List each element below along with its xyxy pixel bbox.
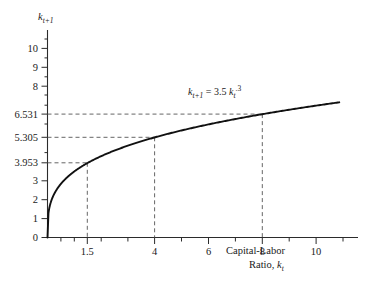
x-axis-major-ticks <box>87 238 316 245</box>
x-axis-minor-ticks <box>61 238 343 242</box>
y-tick-label-8: 8 <box>33 81 38 92</box>
y-tick-label-1: 1 <box>33 213 38 224</box>
equation-rhs-sup: .3 <box>236 84 242 93</box>
svg-text:kt+1: kt+1 <box>38 11 54 25</box>
y-tick-label-2: 2 <box>33 194 38 205</box>
x-tick-label-10: 10 <box>311 246 322 257</box>
y-tick-label-9: 9 <box>33 62 38 73</box>
y-axis-title-sub: t+1 <box>43 16 54 25</box>
y-tick-label-10: 10 <box>28 43 39 54</box>
x-tick-label-1p5: 1.5 <box>81 246 94 257</box>
x-axis-title-line2-prefix: Ratio, <box>249 259 277 270</box>
y-tick-label-5305: 5.305 <box>14 132 38 143</box>
equation-coefficient: 3.5 <box>214 86 227 97</box>
y-axis-title: kt+1 <box>38 11 54 25</box>
production-function-curve <box>48 102 340 237</box>
guide-lines-group <box>48 114 263 237</box>
x-axis-title: Capital-Labor Ratio, kt <box>226 245 285 273</box>
svg-text:kt+1 = 3.5 kt.3: kt+1 = 3.5 kt.3 <box>188 84 241 100</box>
equation-annotation: kt+1 = 3.5 kt.3 <box>188 84 241 100</box>
equation-lhs-sub: t+1 <box>192 91 203 100</box>
x-axis-title-sub: t <box>282 264 285 273</box>
chart-figure: 0 1 2 3 3.953 5.305 6.531 8 9 10 <box>0 0 373 289</box>
y-tick-label-0: 0 <box>33 232 38 243</box>
x-tick-label-6: 6 <box>206 246 211 257</box>
svg-text:Ratio, kt: Ratio, kt <box>249 259 285 273</box>
y-tick-label-3: 3 <box>33 175 38 186</box>
x-tick-label-4: 4 <box>152 246 158 257</box>
y-tick-label-6531: 6.531 <box>14 109 38 120</box>
x-axis-title-line1: Capital-Labor <box>226 245 285 256</box>
y-tick-label-3953: 3.953 <box>14 157 38 168</box>
chart-svg: 0 1 2 3 3.953 5.305 6.531 8 9 10 <box>0 0 373 289</box>
